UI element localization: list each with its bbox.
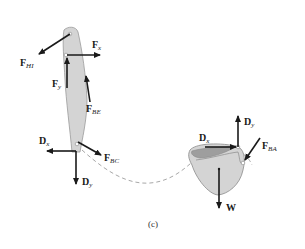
label-bucket-Dy: Dy [244,117,254,129]
diagram-graphics [0,0,305,249]
arrow-FBC [78,142,101,155]
label-FBE: FBE [86,104,101,116]
label-bucket-W: W [226,203,236,213]
label-FBC: FBC [104,153,119,165]
label-Dx: Dx [39,136,49,148]
label-bucket-FBA: FBA [262,141,277,153]
bone-member [63,27,87,152]
arrow-bucket-FBA [245,138,260,160]
label-bucket-Dx: Dx [199,133,209,145]
label-Dy: Dy [82,177,92,189]
label-Fx: Fx [92,40,101,52]
figure-caption: (c) [148,219,158,229]
label-FHI: FHI [20,58,34,70]
free-body-diagram: FHI Fx Fy FBE Dx Dy FBC Dx Dy FBA W (c) [0,0,305,249]
label-Fy: Fy [52,79,61,91]
